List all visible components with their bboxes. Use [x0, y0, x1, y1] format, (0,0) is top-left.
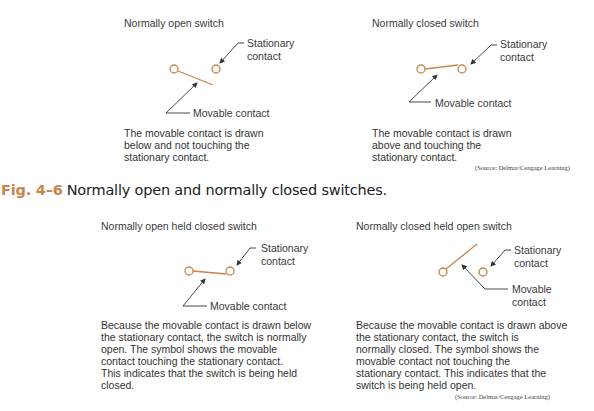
normally-closed-held-open-symbol	[439, 244, 487, 276]
stationary-contact-label: Stationarycontact	[247, 37, 294, 62]
movable-contact-label: Movable contact	[210, 300, 286, 313]
panel-title-normally-closed-held-open: Normally closed held open switch	[356, 220, 512, 232]
panel-description: The movable contact is drawnbelow and no…	[124, 127, 263, 163]
normally-open-symbol	[170, 65, 220, 85]
panel-description: Because the movable contact is drawn bel…	[101, 319, 311, 391]
panel-description: The movable contact is drawnabove and to…	[372, 127, 511, 163]
normally-open-held-closed-symbol	[185, 267, 234, 275]
movable-contact-label: Movable contact	[435, 97, 511, 110]
movable-contact-label: Movablecontact	[512, 283, 552, 308]
movable-contact-label: Movable contact	[193, 107, 269, 120]
figure-caption: Fig. 4–6Normally open and normally close…	[1, 182, 387, 198]
normally-closed-symbol	[417, 65, 466, 73]
stationary-contact-label: Stationarycontact	[514, 244, 561, 269]
source-credit: (Source: Delmar/Cengage Learning)	[455, 393, 550, 400]
stationary-contact-label: Stationarycontact	[261, 242, 308, 267]
panel-description: Because the movable contact is drawn abo…	[356, 319, 567, 391]
panel-title-normally-open: Normally open switch	[124, 17, 224, 29]
figure-caption-text: Normally open and normally closed switch…	[67, 182, 387, 198]
stationary-contact-label: Stationarycontact	[500, 38, 547, 63]
panel-title-normally-closed: Normally closed switch	[372, 17, 479, 29]
source-credit: (Source: Delmar/Cengage Learning)	[475, 164, 570, 171]
figure-number: Fig. 4–6	[1, 182, 63, 198]
panel-title-normally-open-held-closed: Normally open held closed switch	[101, 220, 257, 232]
